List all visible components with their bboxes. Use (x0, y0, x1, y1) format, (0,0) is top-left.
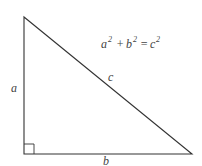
side-b-label: b (103, 154, 109, 166)
formula-exp-c: 2 (156, 35, 160, 44)
formula-exp-a: 2 (108, 35, 112, 44)
pythagorean-formula: a 2 + b 2 = c 2 (101, 35, 160, 51)
right-angle-marker (24, 144, 34, 154)
formula-equals: = (140, 37, 148, 51)
formula-b: b (126, 37, 132, 51)
side-a-label: a (11, 81, 17, 95)
side-c-label: c (108, 70, 114, 84)
formula-plus: + (116, 37, 124, 51)
pythagorean-diagram: a c b a 2 + b 2 = c 2 (0, 0, 202, 166)
formula-exp-b: 2 (133, 35, 137, 44)
formula-a: a (101, 37, 107, 51)
